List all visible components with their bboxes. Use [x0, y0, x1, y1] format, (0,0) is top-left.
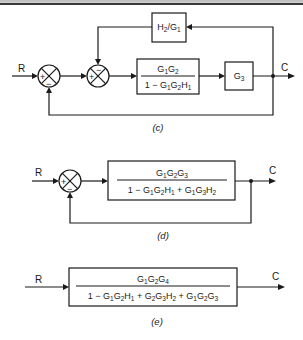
arrowhead-icon: [53, 178, 59, 184]
arrowhead-icon: [32, 73, 38, 79]
overall-transfer-function-block: G1G2G4 1 − G1G2H1 + G2G3H2 + G1G2G3: [69, 268, 237, 306]
feedback-block-h2-g1: H2/G1: [152, 13, 186, 42]
arrowhead-icon: [63, 284, 69, 290]
arrowhead-icon: [81, 73, 87, 79]
caption-d: (d): [157, 230, 169, 241]
output-label-c: C: [272, 271, 279, 282]
caption-c: (c): [152, 122, 163, 133]
feedback-path: [98, 27, 152, 62]
input-label-r: R: [18, 63, 25, 74]
input-label-r: R: [35, 274, 42, 285]
diagram-d: R + − G1G2G3 1 − G1G2H1 + G1G3H2 C: [32, 161, 276, 241]
block-diagram-figure: R + − + − G1G2: [0, 0, 303, 340]
plus-sign: +: [40, 72, 45, 82]
diagram-e: R G1G2G4 1 − G1G2H1 + G2G3H2 + G1G2G3 C …: [25, 268, 285, 327]
forward-block-g1g2: G1G2 1 − G1G2H1: [137, 59, 199, 94]
summing-junction: + −: [59, 170, 81, 194]
block-numerator: G1G2G4: [137, 274, 169, 285]
arrowhead-icon: [269, 178, 276, 184]
arrowhead-icon: [219, 73, 225, 79]
output-label-c: C: [269, 165, 276, 176]
arrowhead-icon: [102, 178, 108, 184]
plus-sign: +: [61, 177, 66, 187]
caption-e: (e): [151, 316, 163, 327]
plus-sign: +: [89, 72, 94, 82]
forward-block-reduced: G1G2G3 1 − G1G2H1 + G1G3H2: [108, 161, 235, 200]
arrowhead-icon: [131, 73, 137, 79]
output-label-c: C: [281, 62, 288, 73]
summing-junction-1: + −: [38, 65, 60, 89]
minus-sign: −: [46, 79, 51, 89]
block-numerator: G1G2G3: [156, 168, 188, 179]
summing-junction-2: + −: [87, 65, 109, 87]
arrowhead-icon: [288, 73, 295, 79]
arrowhead-icon: [278, 284, 285, 290]
diagram-c: R + − + − G1G2: [12, 13, 295, 133]
minus-sign: −: [67, 184, 72, 194]
input-label-r: R: [35, 167, 42, 178]
minus-sign: −: [96, 65, 101, 75]
forward-block-g3: G3: [225, 62, 253, 90]
arrowhead-icon: [186, 24, 192, 30]
